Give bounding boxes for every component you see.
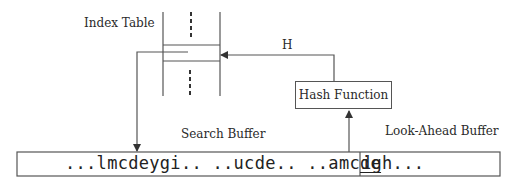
lookahead-buffer-content: igh... [361, 153, 424, 173]
hash-output-label: H [282, 38, 292, 52]
search-buffer-content: ...lmcdeygi.. ..ucde.. ..amcde [65, 153, 381, 173]
hash-function-box: Hash Function [295, 81, 392, 109]
index-table-label: Index Table [84, 16, 155, 30]
hash-function-label: Hash Function [296, 88, 391, 102]
search-buffer-label: Search Buffer [181, 127, 265, 141]
lookahead-buffer-label: Look-Ahead Buffer [385, 124, 499, 138]
hash-output-arrow [221, 55, 334, 81]
search-buffer-text: ...lmcdeygi.. ..ucde.. ..amc [65, 153, 360, 173]
